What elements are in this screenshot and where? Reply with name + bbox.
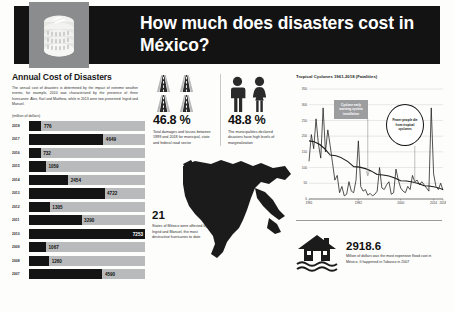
annotation-early-warning: Cyclone early warning system installatio… [334,100,368,119]
y-tick-label: 150 [302,150,308,154]
road-icon-4 [176,94,197,112]
bar-track: 1059 [29,161,145,171]
bar-fill [29,148,41,158]
x-tick-label: 1961 [305,201,312,205]
bar-value-label: 2454 [71,177,81,182]
road-icon-3 [153,94,174,112]
stat-value-marginalization: 48.8 % [228,114,284,127]
bar-value-label: 1305 [52,204,62,209]
bar-year-label: 2017 [12,137,29,141]
flood-cost-value: 2918.6 [346,241,438,253]
coin-stack-icon [29,2,89,68]
bar-year-label: 2013 [12,191,29,195]
coin-stack-glyph [39,11,79,59]
bar-row: 20113290 [12,214,148,226]
stat-caption-road: Total damages and losses between 1999 an… [153,130,215,147]
bar-fill [29,175,68,185]
x-tick-label: 2000 [397,201,404,205]
bar-year-label: 2011 [12,218,29,222]
cyclones-section: Tropical Cyclones 1961-2018 (Fatalities)… [296,74,448,308]
stat-caption-marginalization: The municipalities declared disasters ha… [228,130,284,147]
bar-value-label: 1260 [52,258,62,263]
bar-value-label: 1059 [48,164,58,169]
y-tick-label: 100 [302,166,308,170]
stat-marginalization: 48.8 % The municipalities declared disas… [220,74,289,146]
person-female-icon [250,76,269,112]
bar-row: 20121305 [12,201,148,213]
bar-track: 4590 [29,269,145,279]
cyclones-chart-title: Tropical Cyclones 1961-2018 (Fatalities) [296,74,448,80]
bar-year-label: 2012 [12,205,29,209]
bar-value-label: 4590 [105,272,115,277]
bar-fill [29,121,41,131]
bar-track: 2454 [29,175,145,185]
bar-row: 2018776 [12,120,148,132]
flooded-house-icon [296,232,338,272]
bar-year-label: 2007 [12,272,29,276]
bar-fill [29,161,46,171]
bar-fill [29,188,105,198]
bar-value-label: 732 [43,150,51,155]
y-tick-label: 200 [302,135,308,139]
bar-year-label: 2015 [12,164,29,168]
states-count-caption: States of México were affected by Ingrid… [152,224,214,241]
road-icon [153,74,197,112]
mexico-map-block: 21 States of México were affected by Ing… [151,158,289,276]
people-icon [228,74,284,112]
x-tick-label: 1982 [355,201,362,205]
bar-row: 20142454 [12,174,148,186]
bar-track: 7253 [29,229,145,239]
trend-curve [309,141,443,190]
bar-value-label: 1067 [49,245,59,250]
x-tick-label: 2018 [439,201,446,205]
bar-track: 1260 [29,256,145,266]
flood-cost-caption: Million of dollars was the most expensiv… [346,254,438,265]
bar-track: 1305 [29,202,145,212]
bar-fill [29,202,50,212]
bar-year-label: 2009 [12,245,29,249]
stats-section: 46.8 % Total damages and losses between … [151,74,289,308]
section-divider [296,220,442,221]
bar-year-label: 2010 [12,232,29,236]
bar-row: 20091067 [12,241,148,253]
stat-road-sector: 46.8 % Total damages and losses between … [151,74,220,146]
road-icon-2 [176,74,197,92]
bar-year-label: 2008 [12,259,29,263]
section-title: Annual Cost of Disasters [12,72,148,82]
bar-track: 3290 [29,215,145,225]
annotation-fewer-deaths: Fewer people die from tropical cyclones [386,104,424,146]
page-title: How much does disasters cost in México? [140,12,420,57]
y-tick-label: 300 [302,103,308,107]
bar-fill [29,269,102,279]
bar-value-label: 4649 [106,137,116,142]
bar-fill [29,229,145,239]
bar-value-label: 776 [44,123,52,128]
bar-track: 4649 [29,134,145,144]
person-male-icon [228,76,247,112]
mexico-map-icon [181,158,293,262]
states-count-value: 21 [152,210,165,222]
bar-year-label: 2014 [12,178,29,182]
flood-cost-block: 2918.6 Million of dollars was the most e… [296,232,446,272]
road-icon-1 [153,74,174,92]
flood-text: 2918.6 Million of dollars was the most e… [346,239,438,265]
stat-pair: 46.8 % Total damages and losses between … [151,74,289,146]
bar-track: 1067 [29,242,145,252]
bar-track: 4722 [29,188,145,198]
units-label: (million of dollars) [12,114,148,118]
bar-track: 732 [29,148,145,158]
bar-row: 20107253 [12,228,148,240]
infographic-page: How much does disasters cost in México? … [0,0,454,312]
y-tick-label: 250 [302,119,308,123]
bar-fill [29,242,46,252]
cyclones-chart-svg: 3503002502001501005001961198220002014201… [296,83,446,211]
y-tick-label: 50 [303,182,307,186]
stat-value-road: 46.8 % [153,114,215,127]
bar-fill [29,215,82,225]
annual-cost-section: Annual Cost of Disasters The annual cost… [12,72,148,308]
y-tick-label: 350 [302,87,308,91]
bar-row: 20174649 [12,133,148,145]
bar-year-label: 2016 [12,151,29,155]
bar-value-label: 7253 [133,231,143,236]
x-tick-label: 2014 [430,201,437,205]
